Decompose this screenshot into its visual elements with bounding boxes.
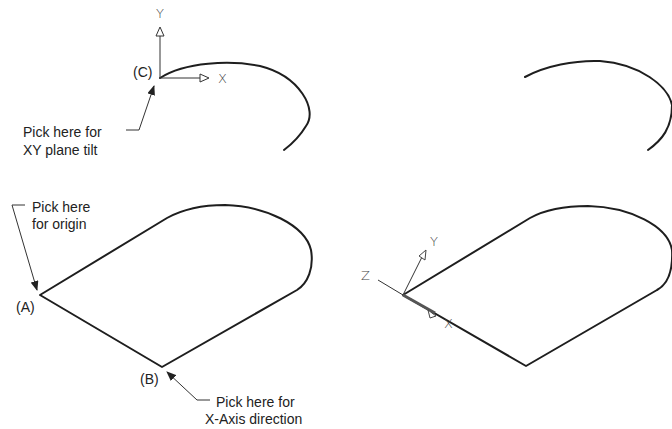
arc-top-left — [160, 63, 310, 150]
callout-xy-tilt-line1: Pick here for — [23, 124, 102, 140]
ucs-3point-diagram: Y X (C) Pick here for XY plane tilt (A) … — [0, 0, 672, 429]
x-axis-arrow-icon — [200, 74, 209, 82]
panel-top-left: Y X (C) Pick here for XY plane tilt — [23, 6, 310, 158]
arc-top-right — [525, 61, 672, 150]
y-axis-label: Y — [430, 234, 438, 249]
callout-x-axis-line1: Pick here for — [216, 394, 295, 410]
callout-x-axis-line2: X-Axis direction — [205, 411, 302, 427]
x-axis-label: X — [218, 71, 227, 86]
callout-origin-line2: for origin — [32, 216, 86, 232]
x-axis-label: X — [444, 316, 453, 331]
callout-xy-tilt-line2: XY plane tilt — [23, 142, 98, 158]
y-axis-arrow-icon — [156, 27, 164, 36]
callout-origin-line1: Pick here — [32, 199, 91, 215]
z-axis-label: Z — [361, 268, 370, 283]
point-b-label: (B) — [140, 371, 159, 387]
panel-top-right — [525, 61, 672, 150]
panel-bottom-right: Y Z X — [361, 206, 672, 366]
point-a-label: (A) — [16, 299, 35, 315]
panel-bottom-left: (A) (B) Pick here for origin Pick here f… — [12, 199, 312, 427]
y-axis-arrow-icon — [419, 250, 426, 260]
z-axis-line — [378, 280, 403, 295]
callout-leader-xy-tilt — [126, 86, 154, 130]
profile-bottom-right — [403, 206, 672, 366]
y-axis-label: Y — [156, 6, 164, 21]
callout-leader-x-axis — [167, 372, 210, 400]
point-c-label: (C) — [133, 64, 152, 80]
x-axis-line — [403, 295, 435, 313]
